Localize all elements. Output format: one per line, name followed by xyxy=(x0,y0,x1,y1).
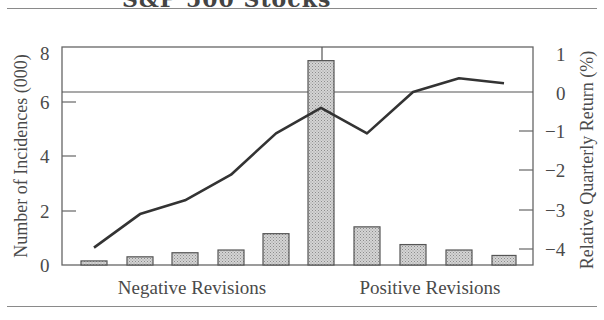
right-axis-ticks xyxy=(519,131,533,249)
bar-series xyxy=(81,61,516,265)
svg-text:4: 4 xyxy=(40,146,50,167)
group-label-negative: Negative Revisions xyxy=(118,277,266,298)
svg-text:−3: −3 xyxy=(545,200,565,221)
svg-text:2: 2 xyxy=(40,201,50,222)
svg-text:6: 6 xyxy=(40,92,50,113)
svg-text:−4: −4 xyxy=(545,239,566,260)
svg-text:0: 0 xyxy=(40,255,50,276)
bar xyxy=(354,227,380,265)
bar xyxy=(263,234,289,265)
bar xyxy=(492,255,516,265)
bar xyxy=(172,253,198,265)
bar xyxy=(446,250,472,265)
bar xyxy=(218,250,244,265)
bar xyxy=(127,257,153,265)
bar xyxy=(400,245,426,265)
chart-canvas: 0 2 4 6 8 1 0 −1 −2 −3 −4 Number of Inci… xyxy=(0,0,604,320)
svg-text:0: 0 xyxy=(556,83,566,104)
return-line-series xyxy=(94,78,504,247)
svg-text:8: 8 xyxy=(40,43,50,64)
svg-text:−2: −2 xyxy=(545,160,565,181)
bar xyxy=(308,61,334,265)
svg-text:1: 1 xyxy=(556,44,566,65)
bar xyxy=(81,261,107,265)
right-axis-title: Relative Quarterly Return (%) xyxy=(577,51,598,269)
group-label-positive: Positive Revisions xyxy=(360,277,501,298)
right-axis-labels: 1 0 −1 −2 −3 −4 xyxy=(545,44,566,260)
left-axis-labels: 0 2 4 6 8 xyxy=(40,43,50,276)
svg-text:−1: −1 xyxy=(545,121,565,142)
left-axis-title: Number of Incidences (000) xyxy=(11,54,32,257)
left-axis-ticks xyxy=(62,102,76,211)
